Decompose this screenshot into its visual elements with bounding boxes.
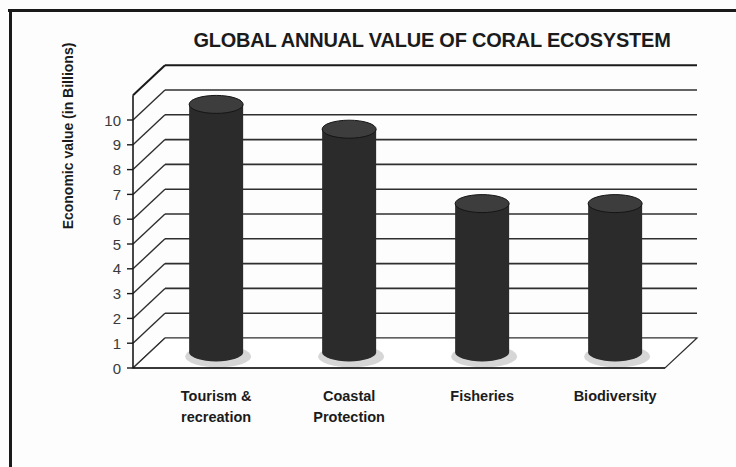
x-axis-category-label: Fisheries <box>407 386 557 407</box>
svg-text:9: 9 <box>113 136 121 153</box>
y-axis-tick-labels: 109876543210 <box>104 112 121 377</box>
svg-text:10: 10 <box>104 112 121 129</box>
svg-text:3: 3 <box>113 285 121 302</box>
svg-text:2: 2 <box>113 310 121 327</box>
bar-cylinder <box>584 195 650 368</box>
svg-text:5: 5 <box>113 236 121 253</box>
svg-text:1: 1 <box>113 335 121 352</box>
bar-series <box>185 95 650 367</box>
svg-text:0: 0 <box>113 360 121 377</box>
svg-text:7: 7 <box>113 186 121 203</box>
category-label-line1: Tourism & <box>141 386 291 407</box>
category-label-line2: recreation <box>141 407 291 428</box>
category-label-line1: Biodiversity <box>540 386 690 407</box>
x-axis-category-labels: Tourism &recreationCoastalProtectionFish… <box>0 386 736 456</box>
x-axis-category-label: Tourism &recreation <box>141 386 291 428</box>
svg-text:8: 8 <box>113 161 121 178</box>
svg-text:4: 4 <box>113 260 121 277</box>
bar-cylinder <box>451 195 517 368</box>
chart-page: GLOBAL ANNUAL VALUE OF CORAL ECOSYSTEM E… <box>0 0 736 467</box>
svg-text:6: 6 <box>113 211 121 228</box>
bar-cylinder <box>185 95 251 367</box>
x-axis-category-label: Biodiversity <box>540 386 690 407</box>
category-label-line1: Coastal <box>274 386 424 407</box>
category-label-line2: Protection <box>274 407 424 428</box>
x-axis-category-label: CoastalProtection <box>274 386 424 428</box>
category-label-line1: Fisheries <box>407 386 557 407</box>
bar-cylinder <box>318 120 384 367</box>
